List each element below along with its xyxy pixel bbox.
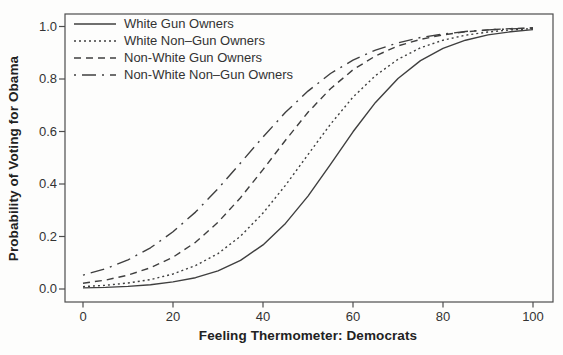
x-tick-label: 100: [511, 309, 555, 325]
y-tick-label: 0.0: [27, 281, 57, 297]
y-tick-label: 1.0: [27, 19, 57, 35]
y-tick-label: 0.2: [27, 229, 57, 245]
y-tick-label: 0.6: [27, 124, 57, 140]
x-axis-title: Feeling Thermometer: Democrats: [83, 328, 533, 343]
x-tick-label: 0: [61, 309, 105, 325]
y-tick-label: 0.8: [27, 71, 57, 87]
x-tick-label: 60: [331, 309, 375, 325]
x-tick-label: 80: [421, 309, 465, 325]
legend-label-non-white-gun-owners: Non-White Gun Owners: [124, 50, 262, 66]
chart-canvas: [0, 0, 563, 355]
legend-label-white-gun-owners: White Gun Owners: [124, 16, 234, 32]
y-axis-title: Probability of Voting for Obama: [6, 9, 23, 309]
legend-label-white-non-gun-owners: White Non–Gun Owners: [124, 33, 265, 49]
y-tick-label: 0.4: [27, 176, 57, 192]
figure: Probability of Voting for Obama Feeling …: [0, 0, 563, 355]
x-tick-label: 40: [241, 309, 285, 325]
legend-label-non-white-non-gun-owners: Non-White Non–Gun Owners: [124, 67, 293, 83]
x-tick-label: 20: [151, 309, 195, 325]
